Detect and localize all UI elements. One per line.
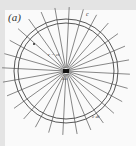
radial-ray: [67, 74, 78, 134]
radial-ray: [2, 68, 63, 71]
radial-ray: [69, 72, 128, 89]
radial-ray: [66, 7, 69, 68]
radial-ray: [69, 60, 129, 71]
radial-ray: [68, 34, 118, 70]
velocity-label: c: [86, 11, 89, 17]
radial-ray: [3, 72, 63, 83]
radial-ray: [67, 9, 84, 68]
radius-marker: [33, 43, 35, 45]
radial-ray: [69, 71, 130, 74]
center-label: dω: [62, 76, 67, 81]
radial-ray: [14, 73, 64, 109]
spherical-wave-diagram: c r = ct dω c dt: [0, 0, 136, 146]
shell-thickness-label: c dt: [92, 114, 100, 119]
radial-ray: [63, 74, 66, 135]
radius-label: r = ct: [48, 52, 60, 57]
radial-ray: [55, 8, 66, 68]
center-source: [63, 69, 69, 73]
radial-ray: [49, 74, 66, 133]
